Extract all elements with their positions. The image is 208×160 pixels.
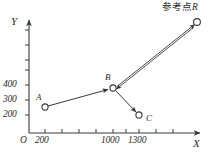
y-axis [25, 20, 29, 133]
point-marker-r [194, 19, 201, 26]
point-marker-a [42, 104, 48, 110]
point-marker-b [110, 85, 116, 91]
edge-b-to-c [116, 91, 136, 112]
reference-point-annotation: 参考点R [162, 2, 198, 13]
data-point-markers [42, 19, 201, 119]
y-axis-ticks [25, 30, 29, 115]
y-axis-label: Y [11, 16, 17, 27]
edge-b-to-r-double [117, 25, 195, 90]
figure-canvas: Y X O 400 300 200 200 1000 1300 A B C 参考… [0, 0, 208, 160]
x-tick-label-200: 200 [35, 136, 49, 146]
y-tick-label-300: 300 [3, 95, 17, 105]
x-tick-label-1300: 1300 [128, 136, 146, 146]
x-axis-ticks [45, 129, 173, 133]
x-tick-label-1000: 1000 [101, 136, 119, 146]
origin-label: O [20, 136, 27, 146]
x-axis-label: X [193, 138, 200, 149]
y-tick-label-200: 200 [3, 110, 17, 120]
edge-a-to-b [48, 90, 108, 107]
x-axis [29, 129, 200, 133]
reference-point-text-latin: R [192, 2, 198, 12]
point-label-c: C [146, 114, 152, 123]
point-label-b: B [105, 73, 111, 82]
reference-point-text-cjk: 参考点 [162, 1, 192, 12]
point-label-a: A [36, 93, 42, 102]
point-marker-c [136, 112, 142, 118]
y-tick-label-400: 400 [3, 80, 17, 90]
